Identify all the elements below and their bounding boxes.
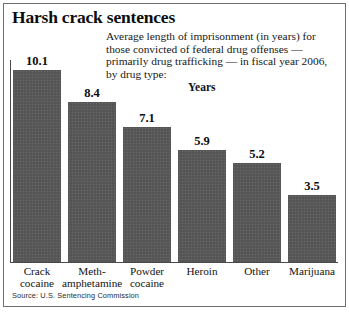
- plot-area: Years 10.18.47.15.95.23.5: [10, 60, 338, 263]
- x-axis-line: [10, 262, 338, 263]
- bar-value-label: 10.1: [13, 54, 61, 69]
- bar-value-label: 5.9: [178, 134, 226, 149]
- bar: [123, 127, 171, 262]
- x-axis-category-label: Other: [227, 266, 287, 278]
- bar: [178, 150, 226, 262]
- y-axis-line: [10, 60, 11, 263]
- x-axis-category-label: Powder cocaine: [117, 266, 177, 290]
- y-axis-label: Years: [188, 81, 215, 93]
- x-axis-category-label: Crack cocaine: [7, 266, 67, 290]
- infographic-chart: Harsh crack sentences Average length of …: [0, 0, 349, 312]
- source-note: Source: U.S. Sentencing Commission: [12, 291, 139, 300]
- x-axis-category-label: Meth- amphetamine: [62, 266, 122, 290]
- bar: [13, 70, 61, 262]
- bar: [233, 163, 281, 262]
- x-axis-category-label: Heroin: [172, 266, 232, 278]
- bar-value-label: 3.5: [288, 179, 336, 194]
- bar-value-label: 5.2: [233, 147, 281, 162]
- bar-value-label: 7.1: [123, 111, 171, 126]
- bar: [68, 102, 116, 262]
- page-title: Harsh crack sentences: [12, 7, 175, 28]
- bar-value-label: 8.4: [68, 86, 116, 101]
- bar: [288, 195, 336, 262]
- x-axis-category-label: Marijuana: [282, 266, 342, 278]
